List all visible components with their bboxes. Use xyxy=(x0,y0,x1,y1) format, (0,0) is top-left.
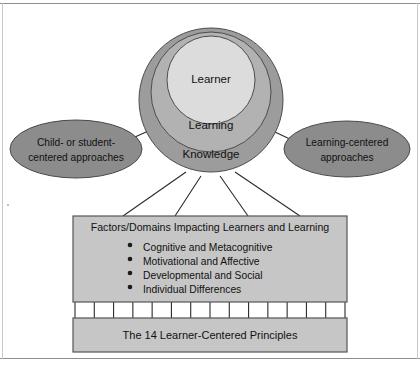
ellipse-child-centered-shape xyxy=(10,120,142,178)
ellipse-learning-centered-shape xyxy=(284,121,410,177)
ring-label-learner: Learner xyxy=(191,73,231,85)
factors-bullet-item: Cognitive and Metacognitive xyxy=(143,242,273,253)
bullet-marker-icon xyxy=(128,257,133,262)
principles-box-label: The 14 Learner-Centered Principles xyxy=(123,329,298,341)
ellipse-child-centered[interactable]: Child- or student- centered approaches xyxy=(10,120,142,178)
connector-core-fan-3 xyxy=(220,176,248,216)
connector-core-fan-4 xyxy=(235,172,300,216)
ring-label-knowledge: Knowledge xyxy=(183,148,240,160)
bullet-marker-icon xyxy=(128,271,133,276)
diagram-canvas: Child- or student- centered approaches L… xyxy=(0,0,420,371)
ellipse-learning-centered-line2: approaches xyxy=(320,152,373,163)
factors-bullet-item: Developmental and Social xyxy=(143,270,263,281)
ellipse-learning-centered-line1: Learning-centered xyxy=(306,137,389,148)
scan-speck xyxy=(7,204,9,206)
core-to-factors-connectors xyxy=(123,172,300,216)
ellipse-child-centered-line1: Child- or student- xyxy=(37,137,115,148)
ring-label-learning: Learning xyxy=(189,119,234,131)
factors-bullet-item: Individual Differences xyxy=(143,284,241,295)
connector-core-fan-2 xyxy=(175,176,201,216)
principles-box[interactable]: The 14 Learner-Centered Principles xyxy=(73,318,347,352)
bullet-marker-icon xyxy=(128,285,133,290)
factors-box[interactable]: Factors/Domains Impacting Learners and L… xyxy=(73,216,347,302)
ellipse-child-centered-line2: centered approaches xyxy=(28,152,124,163)
figure-container: Child- or student- centered approaches L… xyxy=(0,0,420,371)
connector-core-fan-1 xyxy=(123,172,186,216)
bullet-marker-icon xyxy=(128,243,133,248)
core-concentric-circles[interactable]: Learner Learning Knowledge xyxy=(139,28,283,172)
factors-box-heading: Factors/Domains Impacting Learners and L… xyxy=(91,221,330,233)
factors-bullet-item: Motivational and Affective xyxy=(143,256,260,267)
principles-connector-ladder xyxy=(75,302,345,318)
ellipse-learning-centered[interactable]: Learning-centered approaches xyxy=(284,121,410,177)
